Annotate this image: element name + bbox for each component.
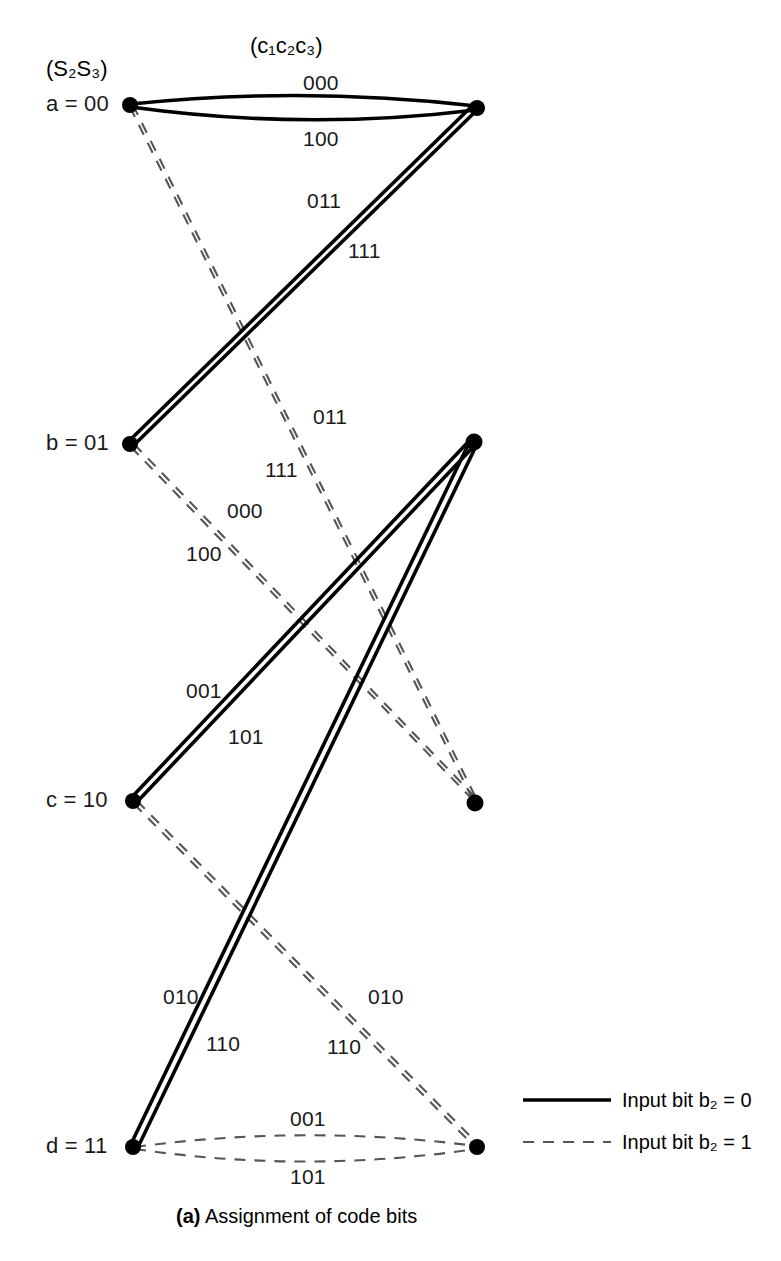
edge-d-to-d-101 xyxy=(135,1149,476,1162)
edge-label-b-a-011: 011 xyxy=(307,190,341,211)
edge-label-text: 101 xyxy=(290,1165,326,1188)
edge-label-text: 100 xyxy=(303,127,339,150)
edge-label-c-d-010: 010 xyxy=(368,986,404,1007)
caption-tag: (a) xyxy=(176,1205,200,1227)
edge-label-c-d-110: 110 xyxy=(327,1036,361,1057)
edge-label-d-d-101: 101 xyxy=(290,1166,326,1187)
node-b-left xyxy=(122,436,138,452)
edge-label-a-a-000: 000 xyxy=(303,72,339,93)
edge-d-to-d-001 xyxy=(135,1135,476,1147)
edge-label-text: 111 xyxy=(265,458,298,481)
node-d-left xyxy=(125,1139,141,1155)
edge-label-text: 011 xyxy=(313,405,347,428)
edge-c-to-d-110 xyxy=(137,801,479,1145)
legend-label-0: Input bit b₂ = 0 xyxy=(622,1089,752,1111)
legend-item-input-0: Input bit b₂ = 0 xyxy=(622,1089,752,1112)
edge-label-c-b-101: 101 xyxy=(228,726,264,747)
edge-b-to-a-111 xyxy=(134,110,477,445)
edge-c-to-d-010 xyxy=(134,804,476,1148)
figure-caption: (a) Assignment of code bits xyxy=(176,1205,417,1228)
edge-label-text: 110 xyxy=(206,1032,240,1055)
edge-label-text: 100 xyxy=(186,542,222,565)
edge-label-d-b-110: 110 xyxy=(206,1033,240,1054)
caption-text: Assignment of code bits xyxy=(205,1205,417,1227)
edge-label-text: 000 xyxy=(227,499,263,522)
edge-label-a-c-111: 111 xyxy=(265,459,298,480)
edge-label-text: 010 xyxy=(368,985,404,1008)
node-a-right xyxy=(469,100,485,116)
edge-label-text: 111 xyxy=(348,239,381,262)
edge-d-to-b-010 xyxy=(131,441,470,1144)
edge-b-to-a-011 xyxy=(129,106,472,441)
edge-label-text: 101 xyxy=(228,725,264,748)
edge-label-text: 000 xyxy=(303,71,339,94)
edge-label-a-a-100: 100 xyxy=(303,128,339,149)
trellis-graph xyxy=(0,0,781,1261)
edge-label-b-c-100: 100 xyxy=(186,543,222,564)
edge-label-d-b-010: 010 xyxy=(163,986,199,1007)
edge-label-text: 001 xyxy=(186,679,222,702)
edge-a-to-c-011 xyxy=(130,107,473,800)
edge-a-to-a-100 xyxy=(131,107,476,120)
node-c-left xyxy=(125,793,141,809)
edge-label-text: 010 xyxy=(163,985,199,1008)
node-b-right xyxy=(466,434,483,451)
edge-label-d-d-001: 001 xyxy=(290,1108,326,1129)
edge-label-b-c-000: 000 xyxy=(227,500,263,521)
edge-label-c-b-001: 001 xyxy=(186,680,222,701)
edge-label-a-c-011: 011 xyxy=(313,406,347,427)
node-c-right xyxy=(467,795,484,812)
legend-label-1: Input bit b₂ = 1 xyxy=(622,1131,752,1153)
edge-a-to-c-111 xyxy=(133,105,476,798)
node-a-left xyxy=(122,97,138,113)
legend-line-samples xyxy=(523,1100,611,1142)
edge-label-text: 011 xyxy=(307,189,341,212)
edge-a-to-a-000 xyxy=(131,95,476,106)
edge-label-text: 001 xyxy=(290,1107,326,1130)
edge-label-b-a-111: 111 xyxy=(348,240,381,261)
trellis-figure: (S₂S₃) (c₁c₂c₃) a = 00 b = 01 c = 10 d =… xyxy=(0,0,781,1261)
legend-item-input-1: Input bit b₂ = 1 xyxy=(622,1131,752,1154)
edge-label-text: 110 xyxy=(327,1035,361,1058)
node-d-right xyxy=(469,1139,485,1155)
